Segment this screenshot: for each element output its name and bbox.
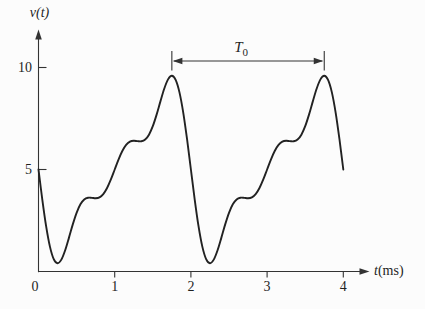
x-axis-label-unit: (ms): [378, 263, 404, 278]
period-arrowhead-right-icon: [314, 58, 324, 65]
x-tick-label: 3: [257, 278, 277, 296]
x-axis-ticks: [115, 272, 344, 278]
y-tick-label: 5: [2, 161, 32, 179]
x-axis-arrowhead-icon: [360, 268, 370, 275]
x-tick-label: 4: [333, 278, 353, 296]
y-axis-ticks: [39, 68, 47, 170]
period-arrowhead-left-icon: [173, 58, 183, 65]
origin-tick-label: 0: [27, 278, 43, 296]
periodic-waveform-figure: v(t) t(ms) 0 T0 1234510: [0, 0, 425, 309]
period-label-subscript: 0: [242, 46, 248, 58]
y-axis-label-text: v(t): [30, 5, 49, 20]
waveform-plot: [0, 0, 425, 309]
waveform-curve: [39, 76, 344, 263]
y-axis-label: v(t): [21, 4, 58, 22]
x-tick-label: 1: [105, 278, 125, 296]
period-label: T0: [214, 38, 268, 56]
y-tick-label: 10: [2, 59, 32, 77]
x-tick-label: 2: [181, 278, 201, 296]
y-axis-arrowhead-icon: [35, 30, 42, 40]
x-axis-label: t(ms): [374, 262, 404, 280]
